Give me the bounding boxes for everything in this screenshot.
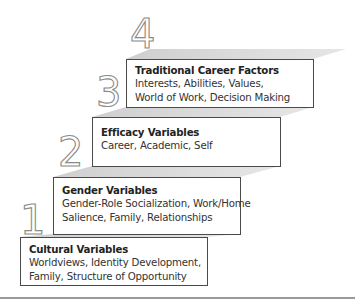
step-4-line-1: Interests, Abilities, Values, [135, 77, 313, 91]
step-2-box: Gender Variables Gender-Role Socializati… [53, 177, 241, 235]
step-1-line-2: Family, Structure of Opportunity [29, 270, 207, 284]
numeral-2-icon: 2 [58, 129, 83, 175]
step-3-line-1: Career, Academic, Self [101, 139, 280, 153]
step-3-box: Efficacy Variables Career, Academic, Sel… [92, 117, 281, 167]
step-2-line-2: Salience, Family, Relationships [62, 211, 240, 225]
step-4-box: Traditional Career Factors Interests, Ab… [126, 59, 314, 108]
step-4-title: Traditional Career Factors [135, 64, 313, 77]
bottom-rule [0, 297, 355, 299]
step-1-line-1: Worldviews, Identity Development, [29, 256, 207, 270]
numeral-4-icon: 4 [130, 11, 155, 57]
step-3-title: Efficacy Variables [101, 126, 280, 139]
step-1-box: Cultural Variables Worldviews, Identity … [20, 237, 208, 286]
step-2-title: Gender Variables [62, 184, 240, 197]
step-2-line-1: Gender-Role Socialization, Work/Home [62, 197, 240, 211]
career-staircase-diagram: 4 3 2 1 Traditional Career Factors Inter… [0, 0, 355, 306]
step-4-line-2: World of Work, Decision Making [135, 91, 313, 105]
numeral-3-icon: 3 [96, 69, 121, 115]
step-1-title: Cultural Variables [29, 243, 207, 256]
